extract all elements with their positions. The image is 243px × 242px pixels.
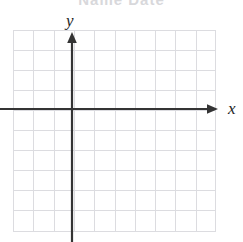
graph-canvas: Name Date [0, 0, 243, 242]
coordinate-plane [13, 30, 216, 232]
x-axis-label: x [228, 100, 236, 117]
cropped-header-text: Name Date [0, 0, 243, 9]
y-axis-arrowhead [67, 32, 77, 43]
y-axis-label: y [66, 12, 74, 29]
axis-lines [13, 30, 223, 235]
x-axis-arrowhead [207, 104, 218, 114]
